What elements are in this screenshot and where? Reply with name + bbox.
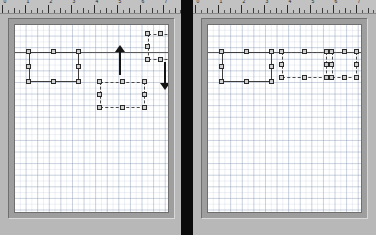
arrow-up-icon	[115, 45, 125, 75]
ruler-tick	[25, 5, 26, 13]
ruler-tick	[106, 8, 107, 13]
ruler-tick	[60, 8, 61, 13]
ruler-label: 7	[165, 0, 168, 4]
ruler-tick	[201, 10, 202, 13]
ruler-tick	[146, 10, 147, 13]
selection-handle[interactable]	[76, 49, 81, 54]
ruler-tick	[316, 10, 317, 13]
ruler-tick	[304, 10, 305, 13]
ruler-tick	[333, 5, 334, 13]
selection-handle[interactable]	[120, 105, 125, 110]
ruler-tick	[270, 10, 271, 13]
ruler-tick	[14, 8, 15, 13]
ruler-tick	[117, 5, 118, 13]
ruler-tick	[88, 10, 89, 13]
selection-handle[interactable]	[97, 79, 102, 84]
ruler-tick	[163, 5, 164, 13]
ruler-tick	[54, 10, 55, 13]
ruler-label: 6	[335, 0, 338, 4]
ruler-tick	[253, 8, 254, 13]
ruler-tick	[345, 8, 346, 13]
ruler-tick	[152, 8, 153, 13]
ruler-tick	[111, 10, 112, 13]
selection-handle[interactable]	[302, 49, 307, 54]
ruler-label: 3	[266, 0, 269, 4]
rectangle-left[interactable]	[222, 52, 272, 82]
selection-handle[interactable]	[158, 31, 163, 36]
ruler-label: 1	[27, 0, 30, 4]
selection-handle[interactable]	[302, 75, 307, 80]
ruler-label: 1	[220, 0, 223, 4]
canvas-frame-after	[201, 18, 367, 218]
ruler-tick	[299, 8, 300, 13]
ruler-tick	[129, 8, 130, 13]
ruler-tick	[276, 8, 277, 13]
horizontal-ruler-before[interactable]: 01234567	[0, 0, 182, 14]
selection-handle[interactable]	[145, 57, 150, 62]
ruler-tick	[8, 10, 9, 13]
selection-handle[interactable]	[244, 49, 249, 54]
ruler-tick	[264, 5, 265, 13]
selection-handle[interactable]	[279, 49, 284, 54]
ruler-label: 3	[73, 0, 76, 4]
selection-handle[interactable]	[142, 92, 147, 97]
selection-handle[interactable]	[269, 64, 274, 69]
selection-handle[interactable]	[279, 75, 284, 80]
arrow-stem	[119, 50, 121, 75]
selection-handle[interactable]	[329, 49, 334, 54]
rectangle-left[interactable]	[29, 52, 79, 82]
selection-handle[interactable]	[26, 64, 31, 69]
selection-handle[interactable]	[354, 75, 359, 80]
ruler-tick	[140, 5, 141, 13]
ruler-tick	[77, 10, 78, 13]
selection-handle[interactable]	[354, 49, 359, 54]
ruler-label: 2	[50, 0, 53, 4]
selection-handle[interactable]	[51, 79, 56, 84]
ruler-tick	[19, 10, 20, 13]
selection-handle[interactable]	[76, 64, 81, 69]
selection-handle[interactable]	[51, 49, 56, 54]
selection-handle[interactable]	[342, 75, 347, 80]
selection-handle[interactable]	[219, 64, 224, 69]
ruler-tick	[65, 10, 66, 13]
selection-handle[interactable]	[26, 79, 31, 84]
ruler-tick	[169, 10, 170, 13]
horizontal-ruler-after[interactable]: 01234567	[193, 0, 376, 14]
selection-handle[interactable]	[342, 49, 347, 54]
drawing-canvas-after[interactable]	[207, 24, 362, 213]
ruler-tick	[322, 8, 323, 13]
selection-handle[interactable]	[244, 79, 249, 84]
ruler-label: 5	[312, 0, 315, 4]
ruler-tick	[224, 10, 225, 13]
ruler-tick	[100, 10, 101, 13]
ruler-tick	[362, 10, 363, 13]
ruler-tick	[230, 8, 231, 13]
ruler-label: 6	[142, 0, 145, 4]
comparison-screenshot: 01234567 01234567	[0, 0, 376, 235]
selection-handle[interactable]	[76, 79, 81, 84]
selection-handle[interactable]	[97, 105, 102, 110]
selection-handle[interactable]	[219, 79, 224, 84]
selection-handle[interactable]	[219, 49, 224, 54]
selection-handle[interactable]	[142, 105, 147, 110]
canvas-frame-before	[8, 18, 174, 218]
ruler-tick	[83, 8, 84, 13]
after-panel: 01234567	[193, 0, 376, 235]
panel-divider	[181, 0, 193, 235]
selection-handle[interactable]	[26, 49, 31, 54]
selection-handle[interactable]	[145, 44, 150, 49]
selection-handle[interactable]	[269, 79, 274, 84]
selection-handle[interactable]	[97, 92, 102, 97]
selection-handle[interactable]	[279, 62, 284, 67]
ruler-tick	[373, 10, 374, 13]
selection-handle[interactable]	[142, 79, 147, 84]
selection-handle[interactable]	[269, 49, 274, 54]
drawing-canvas-before[interactable]	[14, 24, 169, 213]
selection-handle[interactable]	[145, 31, 150, 36]
ruler-label: 7	[358, 0, 361, 4]
selection-handle[interactable]	[354, 62, 359, 67]
selection-handle[interactable]	[120, 79, 125, 84]
selection-handle[interactable]	[329, 62, 334, 67]
ruler-label: 0	[197, 0, 200, 4]
selection-handle[interactable]	[329, 75, 334, 80]
